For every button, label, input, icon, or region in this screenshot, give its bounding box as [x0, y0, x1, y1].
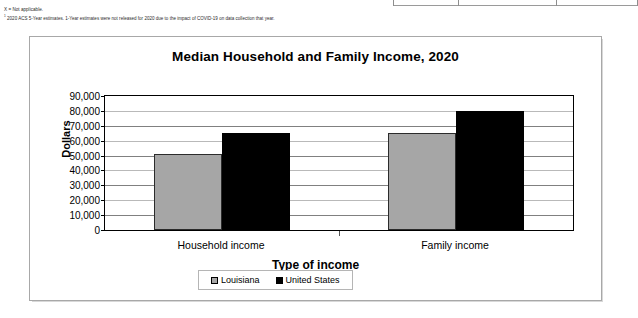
- plot-area: 010,00020,00030,00040,00050,00060,00070,…: [104, 95, 574, 231]
- y-axis-tick: [101, 170, 105, 171]
- y-axis-tick-label: 90,000: [38, 91, 100, 102]
- bar-united-states-family-income: [456, 111, 524, 230]
- chart-legend: Louisiana United States: [198, 270, 353, 290]
- y-axis-tick: [101, 156, 105, 157]
- y-axis-tick-label: 20,000: [38, 195, 100, 206]
- y-axis-tick-label: 80,000: [38, 105, 100, 116]
- legend-label-louisiana: Louisiana: [221, 275, 260, 285]
- y-axis-tick: [101, 141, 105, 142]
- footnote-marker: 1: [4, 14, 6, 18]
- footnote-acs-estimates: 1 2020 ACS 5-Year estimates. 1-Year esti…: [4, 13, 604, 22]
- legend-item-united-states: United States: [276, 275, 340, 285]
- y-axis-tick-label: 50,000: [38, 150, 100, 161]
- x-axis-category-label: Household income: [178, 239, 265, 251]
- legend-label-united-states: United States: [286, 275, 340, 285]
- y-axis-tick: [101, 230, 105, 231]
- legend-swatch-united-states: [276, 277, 283, 284]
- y-axis-tick-label: 40,000: [38, 165, 100, 176]
- y-axis-tick-label: 0: [38, 225, 100, 236]
- x-axis-category-label: Family income: [421, 239, 489, 251]
- bar-louisiana-household-income: [154, 154, 222, 230]
- y-axis-tick: [101, 215, 105, 216]
- y-axis-tick: [101, 200, 105, 201]
- footnotes: X = Not applicable. 1 2020 ACS 5-Year es…: [4, 6, 604, 22]
- y-axis-tick: [101, 185, 105, 186]
- x-axis-center-tick: [339, 231, 340, 236]
- chart-title: Median Household and Family Income, 2020: [30, 49, 601, 64]
- legend-item-louisiana: Louisiana: [211, 275, 260, 285]
- bar-united-states-household-income: [222, 133, 290, 230]
- legend-swatch-louisiana: [211, 277, 218, 284]
- chart-container: Median Household and Family Income, 2020…: [29, 36, 602, 301]
- footnote-acs-text: 2020 ACS 5-Year estimates. 1-Year estima…: [7, 16, 274, 21]
- bar-louisiana-family-income: [388, 133, 456, 230]
- y-axis-tick-label: 60,000: [38, 135, 100, 146]
- footnote-not-applicable: X = Not applicable.: [4, 6, 604, 13]
- y-axis-tick: [101, 96, 105, 97]
- y-axis-tick-label: 10,000: [38, 210, 100, 221]
- y-axis-tick: [101, 111, 105, 112]
- y-axis-tick: [101, 126, 105, 127]
- y-axis-tick-label: 30,000: [38, 180, 100, 191]
- y-axis-tick-label: 70,000: [38, 120, 100, 131]
